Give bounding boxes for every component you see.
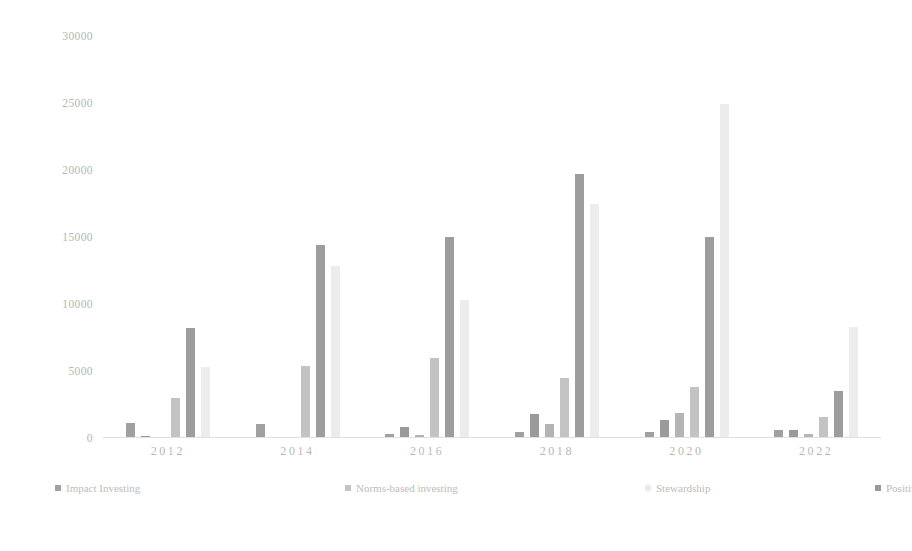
x-axis-tick-2016: 2016: [362, 444, 492, 459]
legend-swatch-icon: [645, 485, 651, 491]
bar-2020-esg-integration: [720, 104, 729, 438]
bar-2020-themed-investing: [675, 413, 684, 438]
legend-item-impact-investing[interactable]: Impact Investing: [55, 480, 345, 496]
y-axis-tick-30000: 30000: [62, 30, 93, 42]
bar-2020-norms-based-investing: [690, 387, 699, 438]
bar-2022-negative-exclusionary-screening: [834, 391, 843, 438]
bar-2016-esg-integration: [460, 300, 469, 438]
x-axis-tick-labels: 201220142016201820202022: [103, 444, 881, 459]
bar-group-2020: [622, 36, 752, 438]
bar-group-2016: [362, 36, 492, 438]
legend-item-positive-best-in-class-screening[interactable]: Positive/Best-in-class screening: [875, 480, 912, 496]
y-axis-tick-10000: 10000: [62, 298, 93, 310]
bar-2012-norms-based-investing: [171, 398, 180, 438]
legend-label: Impact Investing: [66, 483, 140, 494]
bar-2012-esg-integration: [201, 367, 210, 438]
legend-swatch-icon: [875, 485, 881, 491]
bar-chart: 050001000015000200002500030000 201220142…: [0, 0, 912, 551]
y-axis-tick-15000: 15000: [62, 231, 93, 243]
bar-groups: [103, 36, 881, 438]
bar-2014-negative-exclusionary-screening: [316, 245, 325, 438]
legend-item-norms-based-investing[interactable]: Norms-based investing: [345, 480, 645, 496]
bar-group-2014: [233, 36, 363, 438]
bar-2016-negative-exclusionary-screening: [445, 237, 454, 438]
legend-label: Stewardship: [656, 483, 710, 494]
x-axis-tick-2014: 2014: [233, 444, 363, 459]
y-axis-tick-25000: 25000: [62, 97, 93, 109]
legend-label: Norms-based investing: [356, 483, 458, 494]
x-axis-tick-2012: 2012: [103, 444, 233, 459]
y-axis-tick-0: 0: [87, 432, 93, 444]
bar-2018-esg-integration: [590, 204, 599, 439]
bar-2014-norms-based-investing: [301, 366, 310, 438]
bar-2014-impact-investing: [256, 424, 265, 438]
bar-2022-norms-based-investing: [819, 417, 828, 438]
bar-2020-negative-exclusionary-screening: [705, 237, 714, 438]
bar-2018-norms-based-investing: [560, 378, 569, 438]
bar-2012-impact-investing: [126, 423, 135, 438]
x-axis-tick-2020: 2020: [622, 444, 752, 459]
legend-swatch-icon: [345, 485, 351, 491]
bar-2016-norms-based-investing: [430, 358, 439, 438]
y-axis-tick-20000: 20000: [62, 164, 93, 176]
bar-2018-positive-best-in-class-screening: [530, 414, 539, 438]
bar-group-2018: [492, 36, 622, 438]
bar-group-2012: [103, 36, 233, 438]
bar-2022-esg-integration: [849, 327, 858, 438]
bar-group-2022: [751, 36, 881, 438]
y-axis-tick-5000: 5000: [68, 365, 93, 377]
legend-label: Positive/Best-in-class screening: [886, 483, 912, 494]
bar-2014-esg-integration: [331, 266, 340, 438]
bar-2020-positive-best-in-class-screening: [660, 420, 669, 438]
bar-2012-negative-exclusionary-screening: [186, 328, 195, 438]
bar-2018-themed-investing: [545, 424, 554, 438]
x-axis-tick-2022: 2022: [751, 444, 881, 459]
bar-2018-negative-exclusionary-screening: [575, 174, 584, 438]
plot-area: 050001000015000200002500030000: [103, 36, 881, 438]
x-axis-line: [103, 437, 881, 438]
legend-item-stewardship[interactable]: Stewardship: [645, 480, 875, 496]
chart-legend: Impact InvestingNorms-based investingSte…: [55, 480, 875, 496]
x-axis-tick-2018: 2018: [492, 444, 622, 459]
legend-swatch-icon: [55, 485, 61, 491]
